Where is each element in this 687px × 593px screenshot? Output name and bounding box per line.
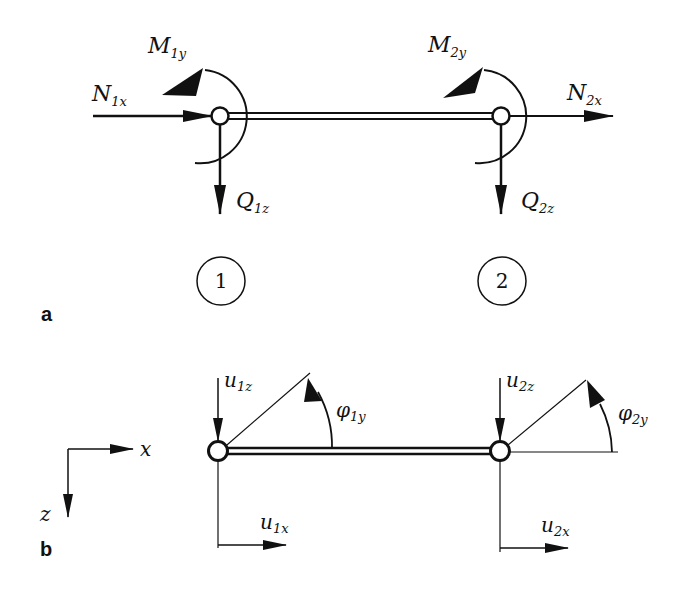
beam-a: [228, 113, 499, 119]
rotation-arrowhead-phi2y: [587, 380, 605, 408]
label-phi1y: φ1y: [336, 398, 366, 424]
beam-b: [228, 448, 492, 454]
label-m1y: M1y: [147, 33, 187, 61]
label-u2x: u2x: [541, 513, 570, 539]
node-1-joint-b: [209, 442, 228, 461]
rotation-arc-phi2y: [600, 404, 612, 452]
label-phi2y: φ2y: [618, 401, 648, 427]
label-q1z: Q1z: [236, 188, 269, 216]
moment-arrowhead-m1y: [162, 68, 203, 96]
label-n2x: N2x: [566, 80, 603, 108]
label-u2z: u2z: [506, 368, 534, 394]
axis-label-x: x: [140, 437, 151, 461]
axis-label-z: z: [39, 502, 51, 526]
coordinate-axes: x z: [39, 437, 151, 526]
label-u1z: u1z: [224, 368, 252, 394]
node-2-joint: [493, 108, 510, 125]
panel-label-a: a: [41, 303, 53, 325]
label-q2z: Q2z: [521, 188, 554, 216]
panel-b: x z u1z φ1y u1x u2z φ2y u2x b: [39, 368, 648, 560]
moment-arrowhead-m2y: [443, 67, 483, 98]
panel-a: N1x M1y Q1z M2y N2x Q2z 1 2 a: [41, 32, 613, 325]
node-1-joint: [212, 108, 229, 125]
node-number-1: 1: [197, 257, 245, 305]
rotation-arrowhead-phi1y: [304, 378, 322, 402]
label-u1x: u1x: [260, 510, 289, 536]
svg-text:2: 2: [496, 269, 509, 293]
beam-element-diagram: N1x M1y Q1z M2y N2x Q2z 1 2 a x z: [0, 0, 687, 593]
label-m2y: M2y: [427, 32, 467, 60]
svg-text:1: 1: [215, 269, 228, 293]
node-2-joint-b: [491, 442, 510, 461]
node-number-2: 2: [478, 257, 526, 305]
label-n1x: N1x: [91, 81, 128, 109]
panel-label-b: b: [40, 538, 52, 560]
